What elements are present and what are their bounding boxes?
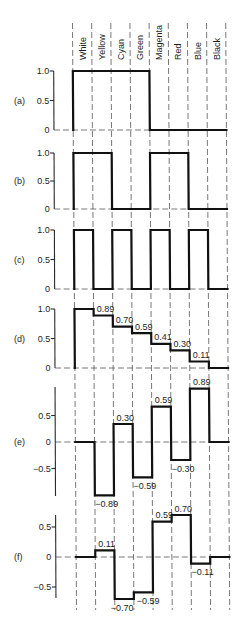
step-waveform-trace	[73, 153, 227, 209]
data-value-label: −0.59	[137, 596, 160, 606]
data-value-label: 0.41	[154, 332, 172, 342]
y-tick-label: 0	[44, 125, 49, 135]
data-value-label: −0.89	[95, 499, 118, 509]
category-label-cyan: Cyan	[116, 39, 126, 60]
y-tick-label: 0.5	[38, 411, 51, 421]
category-separator-line	[207, 23, 211, 610]
category-separator-line	[226, 23, 230, 610]
category-label-yellow: Yellow	[97, 34, 107, 60]
panel-label: (d)	[14, 334, 25, 344]
y-tick-label: 0.5	[38, 334, 51, 344]
step-chart-canvas: WhiteYellowCyanGreenMagentaRedBlueBlack1…	[0, 0, 240, 624]
panel-b: 1.00.50(b)	[14, 148, 227, 214]
data-value-label: −0.59	[134, 481, 157, 491]
category-label-white: White	[78, 37, 88, 60]
y-tick-label: 1.0	[37, 148, 50, 158]
panel-label: (e)	[14, 437, 25, 447]
data-value-label: 0.59	[135, 322, 153, 332]
y-tick-label: 0	[45, 363, 50, 373]
category-label-magenta: Magenta	[154, 25, 164, 60]
data-value-label: 0.89	[193, 377, 211, 387]
panel-label: (c)	[14, 255, 25, 265]
y-tick-label: 0.5	[37, 96, 50, 106]
data-value-label: −0.11	[192, 567, 214, 577]
y-tick-label: 0	[45, 204, 50, 214]
data-value-label: 0.59	[155, 510, 173, 520]
y-tick-label: −0.5	[33, 464, 51, 474]
panel-label: (a)	[14, 96, 25, 106]
data-value-label: 0.89	[97, 304, 115, 314]
data-value-label: 0.30	[117, 413, 135, 423]
data-value-label: −0.30	[172, 464, 195, 474]
color-bar-waveform-figure: WhiteYellowCyanGreenMagentaRedBlueBlack1…	[0, 0, 240, 624]
data-value-label: 0.11	[98, 539, 115, 549]
y-tick-label: 1.0	[38, 304, 51, 314]
y-tick-label: 0	[46, 437, 51, 447]
y-tick-label: 1.0	[37, 225, 50, 235]
data-value-label: 0.30	[173, 339, 191, 349]
y-tick-label: 1.0	[37, 66, 50, 76]
data-value-label: 0.70	[175, 504, 193, 514]
y-tick-label: 0	[45, 284, 50, 294]
category-label-red: Red	[173, 43, 183, 60]
panel-f: 0.50−0.5(f)0.11−0.70−0.590.590.70−0.11	[14, 504, 229, 613]
panel-d: 1.00.50(d)0.890.700.590.410.300.11	[14, 304, 228, 373]
panel-c: 1.00.50(c)	[14, 225, 228, 294]
data-value-label: 0.70	[116, 315, 134, 325]
data-value-label: −0.70	[111, 603, 134, 613]
category-label-blue: Blue	[193, 42, 203, 60]
y-tick-label: 0.5	[37, 255, 50, 265]
step-waveform-trace	[74, 230, 228, 289]
category-label-black: Black	[212, 37, 222, 60]
panel-a: 1.00.50(a)	[14, 66, 226, 135]
y-tick-label: 0.5	[39, 522, 52, 532]
panel-e: 0.50−0.5(e)−0.890.30−0.590.59−0.300.89	[14, 377, 229, 509]
panel-label: (f)	[14, 552, 23, 562]
step-waveform-trace	[73, 71, 227, 130]
y-tick-label: 0	[46, 552, 51, 562]
y-tick-label: 0.5	[37, 176, 50, 186]
data-value-label: 0.59	[155, 395, 173, 405]
category-label-green: Green	[135, 35, 145, 60]
panel-label: (b)	[14, 176, 25, 186]
step-waveform-trace	[76, 515, 229, 599]
data-value-label: 0.11	[193, 350, 210, 360]
y-tick-label: −0.5	[34, 582, 52, 592]
